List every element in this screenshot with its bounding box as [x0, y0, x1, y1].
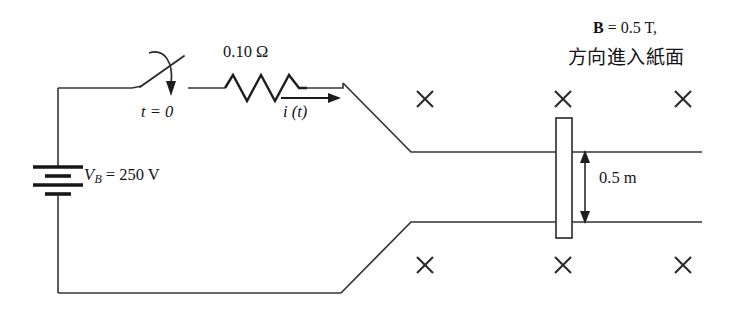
wire-resistor-to-bend: [307, 83, 343, 88]
field-marker-x: [555, 91, 571, 107]
field-symbol-text: B: [593, 19, 604, 36]
rail-bottom: [341, 222, 702, 293]
rod-length-label: 0.5 m: [599, 170, 637, 187]
field-markers: [417, 91, 691, 273]
battery-symbol: [33, 167, 83, 194]
switch-symbol[interactable]: [132, 52, 184, 96]
switch-blade: [140, 56, 184, 87]
battery-subscript-text: B: [94, 172, 102, 186]
switch-time-label: t = 0: [141, 104, 173, 121]
field-direction-label: 方向進入紙面: [568, 48, 684, 67]
switch-close-arrowhead: [166, 81, 176, 96]
field-strength-label: B = 0.5 T,: [593, 20, 657, 36]
rod-length-dimension: [580, 150, 590, 224]
battery-symbol-text: V: [84, 165, 94, 184]
field-marker-x: [417, 257, 433, 273]
field-marker-x: [675, 257, 691, 273]
field-marker-x: [417, 91, 433, 107]
sliding-rod[interactable]: [556, 118, 572, 238]
field-marker-x: [555, 257, 571, 273]
physics-figure: 0.10 Ω t = 0 i (t) VB = 250 V B = 0.5 T,…: [0, 0, 744, 312]
battery-voltage-label: VB = 250 V: [84, 167, 160, 186]
current-label: i (t): [283, 104, 307, 121]
field-marker-x: [675, 91, 691, 107]
field-value-text: = 0.5 T,: [604, 19, 657, 36]
rail-top: [343, 83, 702, 152]
battery-value-text: = 250 V: [102, 165, 160, 184]
current-arrow-head: [328, 93, 341, 103]
resistance-label: 0.10 Ω: [223, 44, 268, 61]
